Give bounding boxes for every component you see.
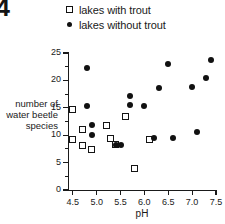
- y-tick-major: [63, 189, 69, 190]
- x-tick: [215, 190, 216, 195]
- data-point-without-trout: [208, 57, 214, 63]
- data-point-with-trout: [131, 165, 138, 172]
- data-point-without-trout: [84, 103, 90, 109]
- y-tick-label: 20: [39, 74, 61, 84]
- x-tick: [72, 190, 73, 195]
- y-tick-major: [63, 107, 69, 108]
- data-point-with-trout: [103, 122, 110, 129]
- x-tick-label: 5.5: [108, 197, 134, 207]
- data-point-without-trout: [189, 84, 195, 90]
- x-tick: [120, 190, 121, 195]
- y-tick-minor: [65, 176, 69, 177]
- y-axis-title-line: number of: [0, 98, 58, 109]
- data-point-without-trout: [165, 61, 171, 67]
- data-point-without-trout: [141, 103, 147, 109]
- x-axis-line: [68, 190, 216, 191]
- x-tick: [96, 190, 97, 195]
- data-point-without-trout: [170, 135, 176, 141]
- y-tick-major: [63, 135, 69, 136]
- y-tick-major: [63, 80, 69, 81]
- data-point-without-trout: [84, 65, 90, 71]
- data-point-without-trout: [127, 93, 133, 99]
- x-tick: [192, 190, 193, 195]
- y-tick-label: 25: [39, 47, 61, 57]
- y-tick-minor: [65, 94, 69, 95]
- y-tick-minor: [65, 148, 69, 149]
- x-tick-label: 7.0: [179, 197, 205, 207]
- data-point-without-trout: [127, 102, 133, 108]
- x-axis-title: pH: [68, 208, 216, 219]
- x-tick-label: 6.0: [131, 197, 157, 207]
- y-tick-major: [63, 162, 69, 163]
- y-tick-major: [63, 52, 69, 53]
- x-tick-label: 4.5: [60, 197, 86, 207]
- data-point-with-trout: [88, 146, 95, 153]
- data-point-without-trout: [89, 122, 95, 128]
- y-axis-title-line: species: [0, 120, 58, 131]
- y-tick-label: 0: [39, 184, 61, 194]
- data-point-with-trout: [69, 106, 76, 113]
- y-tick-minor: [65, 121, 69, 122]
- x-tick-label: 6.5: [155, 197, 181, 207]
- data-point-without-trout: [89, 132, 95, 138]
- data-point-without-trout: [194, 129, 200, 135]
- x-tick: [144, 190, 145, 195]
- data-point-without-trout: [118, 142, 124, 148]
- data-point-with-trout: [79, 126, 86, 133]
- data-point-with-trout: [79, 142, 86, 149]
- data-point-with-trout: [69, 136, 76, 143]
- data-point-without-trout: [156, 85, 162, 91]
- data-point-without-trout: [151, 135, 157, 141]
- x-tick-label: 5.0: [84, 197, 110, 207]
- y-axis-title: number ofwater beetlespecies: [0, 98, 58, 131]
- scatter-plot: 0510152025 4.55.05.56.06.57.07.5 number …: [0, 0, 225, 224]
- y-axis-title-line: water beetle: [0, 109, 58, 120]
- y-tick-label: 5: [39, 157, 61, 167]
- y-tick-minor: [65, 66, 69, 67]
- data-point-with-trout: [122, 113, 129, 120]
- x-tick: [168, 190, 169, 195]
- x-tick-label: 7.5: [203, 197, 225, 207]
- data-point-without-trout: [203, 75, 209, 81]
